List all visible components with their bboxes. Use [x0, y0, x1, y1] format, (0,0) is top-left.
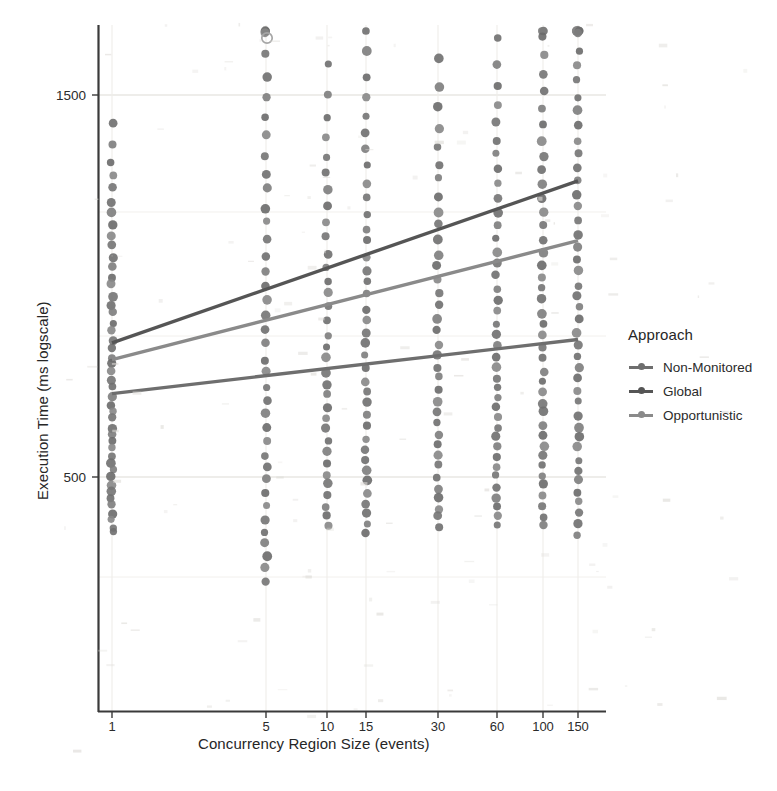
scatter-points — [106, 26, 584, 586]
chart-figure: 1500 500 1 5 10 15 30 60 100 150 Executi… — [0, 0, 777, 791]
x-tick-label-150: 150 — [567, 719, 589, 734]
x-tick-label-30: 30 — [431, 719, 445, 734]
x-tick-label-10: 10 — [320, 719, 334, 734]
trend-lines — [112, 181, 578, 394]
legend-key-icon-opportunistic — [628, 406, 654, 424]
x-tick-label-5: 5 — [262, 719, 269, 734]
tick-marks — [92, 95, 578, 718]
legend-title: Approach — [628, 326, 773, 343]
legend-key-icon-non-monitored — [628, 358, 654, 376]
legend-label-global: Global — [663, 384, 702, 399]
x-tick-label-60: 60 — [490, 719, 504, 734]
x-tick-label-15: 15 — [359, 719, 373, 734]
x-tick-label-1: 1 — [108, 719, 115, 734]
x-tick-label-100: 100 — [532, 719, 554, 734]
legend-label-opportunistic: Opportunistic — [663, 408, 743, 423]
legend-item-opportunistic[interactable]: Opportunistic — [628, 403, 773, 427]
legend-item-non-monitored[interactable]: Non-Monitored — [628, 355, 773, 379]
legend-item-global[interactable]: Global — [628, 379, 773, 403]
gridlines — [98, 25, 606, 712]
legend-key-icon-global — [628, 382, 654, 400]
x-axis-title: Concurrency Region Size (events) — [198, 735, 430, 752]
legend: Approach Non-Monitored Global Opportunis… — [628, 326, 773, 427]
y-axis-title: Execution Time (ms logscale) — [34, 301, 51, 500]
axis-lines — [98, 25, 606, 712]
y-tick-label-1500: 1500 — [40, 88, 86, 103]
legend-label-non-monitored: Non-Monitored — [663, 360, 752, 375]
